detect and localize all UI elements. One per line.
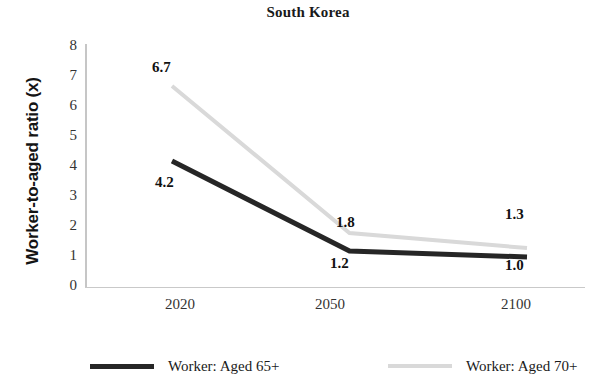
plot-area: [0, 0, 616, 382]
chart-legend: Worker: Aged 65+ Worker: Aged 70+: [0, 355, 616, 381]
chart-figure: South Korea Worker-to-aged ratio (x) 8 7…: [0, 0, 616, 382]
legend-label-aged-70: Worker: Aged 70+: [466, 358, 577, 375]
legend-item-aged-70[interactable]: Worker: Aged 70+: [388, 355, 577, 377]
data-label-aged65-2020: 4.2: [155, 175, 174, 190]
data-label-aged70-2100: 1.3: [505, 207, 524, 222]
legend-swatch-aged-70: [388, 364, 452, 368]
legend-item-aged-65[interactable]: Worker: Aged 65+: [90, 355, 279, 377]
data-label-aged70-2050: 1.8: [336, 215, 355, 230]
data-label-aged65-2100: 1.0: [505, 258, 524, 273]
data-label-aged65-2050: 1.2: [330, 256, 349, 271]
legend-swatch-aged-65: [90, 364, 154, 369]
legend-label-aged-65: Worker: Aged 65+: [168, 358, 279, 375]
data-label-aged70-2020: 6.7: [152, 60, 171, 75]
